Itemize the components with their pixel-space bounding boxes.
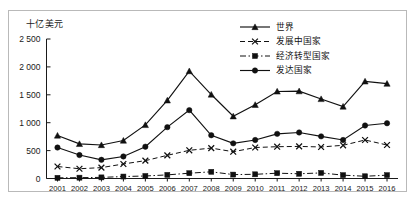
data-point-marker-square — [253, 54, 258, 59]
data-point-marker-circle — [252, 68, 257, 73]
legend-label: 发达国家 — [276, 64, 312, 75]
data-point-marker-circle — [253, 137, 258, 142]
series-line-path — [57, 71, 387, 145]
y-axis-tick-label: 1 500 — [19, 90, 41, 100]
data-point-marker-square — [209, 169, 214, 174]
data-point-marker-triangle — [54, 132, 60, 138]
x-axis-tick-label: 2009 — [225, 184, 242, 193]
data-point-marker-square — [55, 175, 60, 180]
data-point-marker-square — [253, 172, 258, 177]
x-axis-tick-label: 2016 — [379, 184, 396, 193]
series-1 — [55, 137, 390, 172]
x-axis-tick-label: 2007 — [181, 184, 198, 193]
x-axis-tick-label: 2014 — [335, 184, 352, 193]
data-point-marker-circle — [143, 144, 148, 149]
x-axis-tick-label: 2011 — [269, 184, 285, 193]
x-axis-tick-label: 2002 — [71, 184, 88, 193]
legend-label: 世界 — [276, 21, 294, 32]
data-point-marker-square — [77, 175, 82, 180]
data-point-marker-square — [297, 171, 302, 176]
data-point-marker-square — [319, 170, 324, 175]
legend-item-1[interactable]: 发展中国家 — [240, 35, 321, 46]
legend-item-0[interactable]: 世界 — [240, 21, 294, 32]
x-axis-tick-label: 2012 — [291, 184, 308, 193]
y-axis-tick-label: 2 000 — [19, 62, 41, 72]
data-point-marker-circle — [187, 107, 192, 112]
y-axis-tick-label: 2 500 — [19, 34, 41, 44]
x-axis-tick-label: 2005 — [137, 184, 154, 193]
series-line-path — [57, 110, 387, 160]
data-point-marker-triangle — [186, 68, 192, 74]
data-point-marker-square — [363, 174, 368, 179]
legend-label: 发展中国家 — [276, 35, 321, 46]
data-point-marker-circle — [55, 145, 60, 150]
x-axis-tick-label: 2013 — [313, 184, 330, 193]
x-axis-tick-label: 2008 — [203, 184, 220, 193]
data-point-marker-circle — [209, 133, 214, 138]
data-point-marker-triangle — [252, 102, 258, 108]
series-0 — [54, 68, 390, 148]
series-line-path — [57, 172, 387, 178]
data-point-marker-circle — [77, 152, 82, 157]
data-point-marker-square — [341, 173, 346, 178]
data-point-marker-square — [187, 171, 192, 176]
data-point-marker-circle — [340, 137, 345, 142]
chart-legend: 世界发展中国家经济转型国家发达国家 — [240, 21, 330, 76]
y-axis-tick-label: 0 — [36, 174, 41, 184]
x-axis-tick-label: 2003 — [93, 184, 110, 193]
y-axis-tick-label: 500 — [26, 146, 40, 156]
x-axis-tick-label: 2010 — [247, 184, 264, 193]
x-axis-tick-label: 2015 — [357, 184, 374, 193]
data-point-marker-square — [99, 175, 104, 180]
data-point-marker-circle — [318, 134, 323, 139]
data-point-marker-circle — [384, 121, 389, 126]
data-point-marker-circle — [165, 124, 170, 129]
data-point-marker-square — [121, 174, 126, 179]
series-3 — [55, 107, 390, 162]
data-point-marker-circle — [231, 141, 236, 146]
data-point-marker-square — [275, 171, 280, 176]
data-point-marker-circle — [99, 157, 104, 162]
data-point-marker-square — [231, 172, 236, 177]
legend-item-3[interactable]: 发达国家 — [240, 64, 312, 75]
legend-label: 经济转型国家 — [276, 50, 330, 61]
data-point-marker-square — [165, 172, 170, 177]
chart-figure: 十亿美元 05001 0001 5002 0002 50020012002200… — [0, 0, 415, 210]
data-point-marker-square — [143, 173, 148, 178]
data-point-marker-square — [385, 173, 390, 178]
data-point-marker-circle — [274, 131, 279, 136]
data-point-marker-circle — [296, 130, 301, 135]
data-point-marker-circle — [362, 123, 367, 128]
x-axis-tick-label: 2001 — [49, 184, 66, 193]
legend-item-2[interactable]: 经济转型国家 — [240, 50, 330, 61]
data-point-marker-circle — [121, 154, 126, 159]
x-axis-tick-label: 2004 — [115, 184, 132, 193]
line-chart-plot: 05001 0001 5002 0002 5002001200220032004… — [0, 0, 415, 210]
y-axis-tick-label: 1 000 — [19, 118, 41, 128]
x-axis-tick-label: 2006 — [159, 184, 176, 193]
